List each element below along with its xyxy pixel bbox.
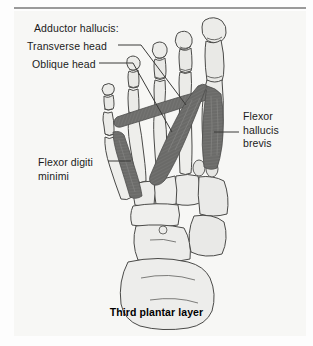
anatomy-figure: Adductor hallucis: Transverse head Obliq… [0,0,313,346]
bone-second-toe-middle-phalanx [179,48,192,73]
bone-fifth-toe-distal-phalanx [102,84,114,96]
bone-navicular [131,204,180,227]
label-flexor-hallucis-brevis: Flexor hallucis brevis [243,110,279,151]
bone-fifth-toe-middle-phalanx [104,95,114,110]
figure-caption: Third plantar layer [0,306,313,318]
label-flexor-digiti-minimi-line1: Flexor digiti [38,156,93,170]
bone-talus [134,225,190,262]
label-flexor-hallucis-brevis-line3: brevis [243,137,279,151]
label-flexor-hallucis-brevis-line2: hallucis [243,124,279,138]
label-oblique-head: Oblique head [32,58,96,72]
bone-hallux-proximal-phalanx [205,40,224,83]
label-flexor-digiti-minimi-line2: minimi [38,170,93,184]
bone-third-toe-distal-phalanx [152,42,167,58]
muscle-flexor-hallucis-brevis [202,86,223,169]
bone-lateral-process [189,215,226,256]
bone-hallux-distal-phalanx [202,18,226,43]
bone-fourth-toe-middle-phalanx [128,70,139,88]
label-transverse-head: Transverse head [27,40,107,54]
label-adductor-hallucis: Adductor hallucis: [34,22,119,36]
bone-fifth-toe-proximal-phalanx [103,112,114,136]
bone-second-toe-distal-phalanx [175,31,192,49]
label-flexor-digiti-minimi: Flexor digiti minimi [38,156,93,183]
bone-cuboid [198,177,228,217]
label-flexor-hallucis-brevis-line1: Flexor [243,110,279,124]
bone-calcaneus [120,259,214,330]
